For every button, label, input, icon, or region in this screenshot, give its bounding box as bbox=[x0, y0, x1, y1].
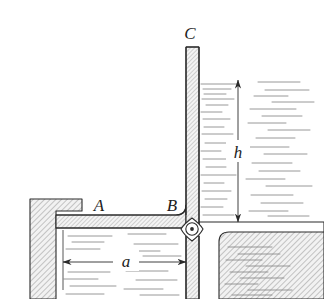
label-a: a bbox=[122, 252, 131, 271]
standpipe-below-junction bbox=[186, 236, 199, 299]
vertical-pipe bbox=[186, 47, 199, 228]
water-upper-right bbox=[201, 82, 314, 216]
label-a-point: A bbox=[93, 196, 105, 215]
figure-container: a h A B C bbox=[0, 0, 324, 299]
dimension-h: h bbox=[226, 80, 250, 222]
label-h: h bbox=[234, 143, 243, 162]
right-floor bbox=[199, 222, 324, 299]
pivot-center-dot bbox=[190, 227, 194, 231]
dimension-a: a bbox=[63, 230, 186, 290]
label-b-point: B bbox=[167, 196, 178, 215]
hydraulics-diagram: a h A B C bbox=[0, 0, 324, 299]
label-c-point: C bbox=[184, 24, 196, 43]
